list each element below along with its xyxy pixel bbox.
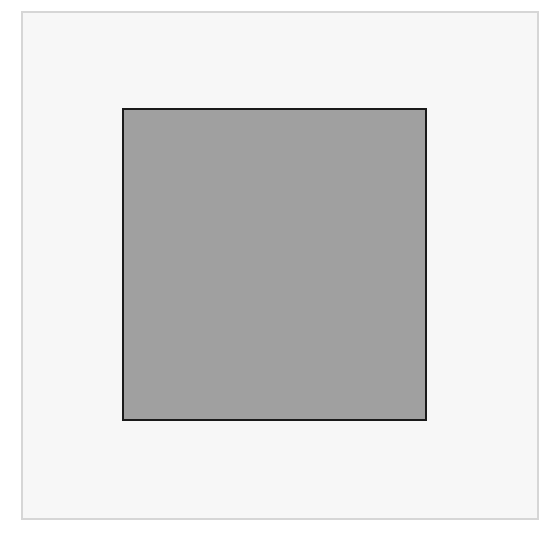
gray-square-shape bbox=[122, 108, 427, 421]
